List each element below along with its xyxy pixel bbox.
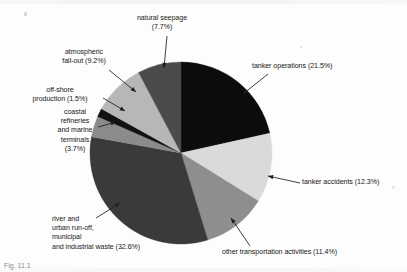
callout-label-offshore-production: off-shore production (1.5%) — [8, 86, 112, 104]
callout-label-river-runoff: river and urban run-off, municipal and i… — [52, 215, 200, 252]
figure-container: natural seepage (7.7%) atmospheric fall-… — [0, 0, 407, 272]
callout-label-coastal-refineries: coastal refineries and marine terminals … — [38, 108, 112, 154]
callout-label-other-transportation: other transportation activities (11.4%) — [222, 248, 404, 257]
callout-label-natural-seepage: natural seepage (7.7%) — [110, 14, 214, 32]
figure-caption: Fig. 11.1 — [4, 262, 31, 269]
callout-label-tanker-operations: tanker operations (21.5%) — [252, 62, 402, 71]
callout-label-tanker-accidents: tanker accidents (12.3%) — [302, 178, 406, 187]
callout-label-atmospheric-fallout: atmospheric fall-out (9.2%) — [34, 48, 134, 66]
